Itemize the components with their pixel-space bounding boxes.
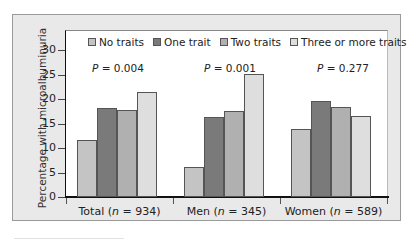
bar: [351, 116, 371, 197]
legend-item-two-traits: Two traits: [220, 36, 281, 48]
legend-swatch: [153, 38, 161, 46]
legend-swatch: [290, 38, 298, 46]
legend-item-no-traits: No traits: [88, 36, 144, 48]
x-label-men: Men (n = 345): [173, 205, 280, 218]
divider: [14, 238, 124, 239]
legend-item-three-or-more: Three or more traits: [290, 36, 406, 48]
y-tick-label: 20: [40, 93, 56, 105]
y-tick-label: 0: [40, 191, 56, 203]
bar: [224, 111, 244, 197]
pvalue-women: P = 0.277: [317, 62, 369, 74]
x-tick: [173, 198, 174, 204]
bar: [137, 92, 157, 197]
bar: [291, 129, 311, 197]
legend: No traits One trait Two traits Three or …: [88, 36, 406, 48]
legend-swatch: [88, 38, 96, 46]
bar: [331, 107, 351, 197]
x-tick: [387, 198, 388, 204]
y-tick-label: 30: [40, 44, 56, 56]
x-label-total: Total (n = 934): [66, 205, 173, 218]
y-tick: [58, 124, 65, 125]
bar: [97, 108, 117, 197]
y-tick-label: 15: [40, 118, 56, 130]
x-tick: [66, 198, 67, 204]
bar: [244, 74, 264, 197]
y-tick: [58, 148, 65, 149]
bar: [311, 101, 331, 197]
bar: [204, 117, 224, 197]
y-tick: [58, 50, 65, 51]
pvalue-men: P = 0.001: [204, 62, 256, 74]
bar: [77, 140, 97, 197]
bar: [117, 110, 137, 197]
y-tick-label: 10: [40, 142, 56, 154]
legend-item-one-trait: One trait: [153, 36, 211, 48]
y-tick: [58, 99, 65, 100]
x-tick: [280, 198, 281, 204]
y-tick-label: 5: [40, 167, 56, 179]
y-tick-label: 25: [40, 69, 56, 81]
x-label-women: Women (n = 589): [280, 205, 387, 218]
y-tick: [58, 197, 65, 198]
bar: [184, 167, 204, 197]
pvalue-total: P = 0.004: [92, 62, 144, 74]
legend-swatch: [220, 38, 228, 46]
y-tick: [58, 75, 65, 76]
y-tick: [58, 173, 65, 174]
